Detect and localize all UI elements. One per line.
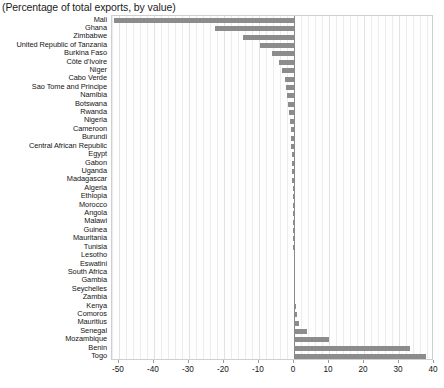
gridline-minor xyxy=(245,16,246,359)
category-label: Seychelles xyxy=(72,285,107,292)
category-label: Cameroon xyxy=(73,125,107,132)
category-label: Kenya xyxy=(86,302,107,309)
axis-tick-label: -50 xyxy=(112,365,124,374)
gridline-minor xyxy=(273,16,274,359)
gridline-minor xyxy=(266,16,267,359)
category-label: Uganda xyxy=(81,167,107,174)
category-label: Zambia xyxy=(83,293,107,300)
bar xyxy=(294,329,307,334)
category-label: United Republic of Tanzania xyxy=(16,41,107,48)
category-label: South Africa xyxy=(68,268,107,275)
plot-area xyxy=(111,15,433,360)
gridline-minor xyxy=(238,16,239,359)
bar xyxy=(286,85,294,90)
gridline-minor xyxy=(280,16,281,359)
category-label: Lesotho xyxy=(81,251,107,258)
axis-tick-label: 40 xyxy=(428,365,437,374)
axis-tick-label: 0 xyxy=(291,365,296,374)
bar xyxy=(282,68,294,73)
category-label: Central African Republic xyxy=(29,142,107,149)
gridline-major xyxy=(189,16,190,359)
chart-title: (Percentage of total exports, by value) xyxy=(2,1,176,13)
axis-tick-mark xyxy=(433,360,434,363)
category-label: Malawi xyxy=(84,217,107,224)
bar xyxy=(287,93,294,98)
gridline-minor xyxy=(343,16,344,359)
bar xyxy=(272,51,294,56)
bar xyxy=(279,60,294,65)
category-label: Madagascar xyxy=(67,175,107,182)
axis-tick-label: -40 xyxy=(147,365,159,374)
category-label: Gambia xyxy=(81,276,107,283)
gridline-minor xyxy=(385,16,386,359)
category-label: Sao Tome and Principe xyxy=(32,83,107,90)
gridline-minor xyxy=(427,16,428,359)
bar xyxy=(114,18,294,23)
gridline-major xyxy=(259,16,260,359)
gridline-major xyxy=(119,16,120,359)
bar xyxy=(215,26,294,31)
category-label: Guinea xyxy=(83,226,107,233)
gridline-minor xyxy=(126,16,127,359)
bar xyxy=(285,77,294,82)
category-label: Morocco xyxy=(79,201,107,208)
gridline-minor xyxy=(133,16,134,359)
axis-tick-mark xyxy=(118,360,119,363)
category-label: Nigeria xyxy=(84,116,107,123)
category-label: Burundi xyxy=(82,133,107,140)
gridline-minor xyxy=(175,16,176,359)
category-label: Botswana xyxy=(75,100,107,107)
axis-tick-mark xyxy=(293,360,294,363)
category-label: Algeria xyxy=(84,184,107,191)
gridline-minor xyxy=(231,16,232,359)
category-label: Ghana xyxy=(85,24,107,31)
gridline-minor xyxy=(147,16,148,359)
bar xyxy=(294,346,410,351)
axis-tick-mark xyxy=(188,360,189,363)
gridline-minor xyxy=(420,16,421,359)
gridline-minor xyxy=(252,16,253,359)
axis-tick-mark xyxy=(258,360,259,363)
category-label: Ethiopia xyxy=(81,192,107,199)
category-label: Gabon xyxy=(85,159,107,166)
category-label: Niger xyxy=(90,66,107,73)
bar xyxy=(294,337,329,342)
bar xyxy=(243,35,294,40)
axis-tick-mark xyxy=(153,360,154,363)
category-label: Eswatini xyxy=(80,260,107,267)
gridline-minor xyxy=(406,16,407,359)
category-label: Burkina Faso xyxy=(64,49,107,56)
gridline-minor xyxy=(182,16,183,359)
gridline-major xyxy=(329,16,330,359)
gridline-minor xyxy=(196,16,197,359)
category-label: Tunisia xyxy=(84,243,107,250)
axis-tick-label: 20 xyxy=(358,365,367,374)
category-label: Mauritius xyxy=(77,318,107,325)
axis-tick-label: 10 xyxy=(323,365,332,374)
gridline-major xyxy=(399,16,400,359)
axis-tick-mark xyxy=(328,360,329,363)
gridline-minor xyxy=(217,16,218,359)
axis-tick-label: 30 xyxy=(393,365,402,374)
category-label: Rwanda xyxy=(80,108,107,115)
category-label: Benin xyxy=(88,344,107,351)
category-label: Mauritania xyxy=(73,234,107,241)
gridline-minor xyxy=(168,16,169,359)
gridline-minor xyxy=(392,16,393,359)
gridline-minor xyxy=(378,16,379,359)
gridline-minor xyxy=(203,16,204,359)
gridline-minor xyxy=(350,16,351,359)
gridline-major xyxy=(154,16,155,359)
category-axis-labels: MaliGhanaZimbabweUnited Republic of Tanz… xyxy=(0,15,109,360)
gridline-major xyxy=(364,16,365,359)
gridline-minor xyxy=(413,16,414,359)
gridline-minor xyxy=(161,16,162,359)
gridline-minor xyxy=(371,16,372,359)
zero-axis-line xyxy=(294,16,295,359)
gridline-minor xyxy=(336,16,337,359)
axis-tick-label: -20 xyxy=(217,365,229,374)
axis-tick-label: -30 xyxy=(182,365,194,374)
export-percentage-bar-chart: (Percentage of total exports, by value) … xyxy=(0,0,444,388)
category-label: Egypt xyxy=(88,150,107,157)
gridline-minor xyxy=(301,16,302,359)
